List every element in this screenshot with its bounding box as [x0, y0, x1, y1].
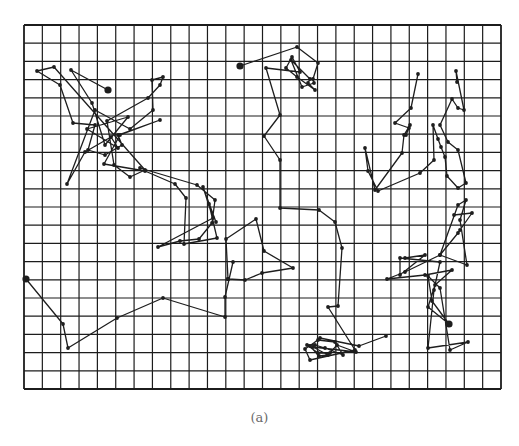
walk-vertex	[445, 174, 449, 178]
walk-vertex	[385, 277, 389, 281]
walk-vertex	[456, 231, 460, 235]
walk-vertex	[326, 353, 330, 357]
walk-vertex	[195, 183, 199, 187]
walk-vertex	[158, 118, 162, 122]
walk-vertex	[262, 249, 266, 253]
walk-vertex	[224, 237, 228, 241]
walk-vertex	[128, 127, 132, 131]
walk-vertex	[326, 305, 330, 309]
walk-vertex	[182, 242, 186, 246]
walk-vertex	[446, 140, 450, 144]
walk-vertex	[426, 274, 430, 278]
walk-vertex	[308, 344, 312, 348]
walk-vertex	[366, 169, 370, 173]
walk-vertex	[300, 85, 304, 89]
walk-vertex	[150, 78, 154, 82]
walk-vertex	[384, 334, 388, 338]
walk-vertex	[409, 106, 413, 110]
walk-vertex	[465, 263, 469, 267]
walk-vertex	[85, 127, 89, 131]
walk-vertex	[161, 296, 165, 300]
walk-vertex	[118, 133, 122, 137]
walk-vertex	[336, 304, 340, 308]
walk-vertex	[393, 121, 397, 125]
walk-vertex	[291, 266, 295, 270]
walk-vertex	[312, 81, 316, 85]
walk-vertex	[254, 217, 258, 221]
walk-vertex	[102, 162, 106, 166]
walk-vertex	[295, 45, 299, 49]
walk-path	[365, 71, 466, 191]
walk-vertex	[151, 108, 155, 112]
walk-vertex	[456, 106, 460, 110]
walk-vertex	[313, 88, 317, 92]
walk-vertex	[398, 273, 402, 277]
walk-vertex	[450, 97, 454, 101]
walk-vertex	[290, 55, 294, 59]
walk-vertex	[71, 121, 75, 125]
walk-vertex	[66, 346, 70, 350]
walk-vertex	[462, 108, 466, 112]
walk-path	[37, 67, 217, 247]
walk-vertex	[398, 256, 402, 260]
walk-vertex	[116, 146, 120, 150]
walk-vertex	[52, 65, 56, 69]
walk-path	[226, 219, 293, 280]
walk-vertex	[318, 336, 322, 340]
walk-vertex	[432, 158, 436, 162]
walk-vertex	[308, 358, 312, 362]
walk-vertex	[317, 208, 321, 212]
walk-vertex	[430, 299, 434, 303]
walk-vertex	[109, 135, 113, 139]
walk-vertex	[295, 75, 299, 79]
walk-vertex	[103, 153, 107, 157]
walk-vertex	[278, 158, 282, 162]
walk-vertex	[143, 169, 147, 173]
walk-vertex	[316, 61, 320, 65]
walk-start-dot	[104, 86, 111, 93]
walk-vertex	[456, 148, 460, 152]
walk-vertex	[426, 305, 430, 309]
walk-vertex	[335, 343, 339, 347]
walk-vertex	[357, 344, 361, 348]
walk-top-left	[35, 65, 219, 249]
walk-vertex	[178, 239, 182, 243]
walk-vertex	[439, 145, 443, 149]
walk-vertex	[438, 123, 442, 127]
walk-vertex	[58, 83, 62, 87]
walk-vertex	[433, 283, 437, 287]
walk-vertex	[93, 108, 97, 112]
walk-vertex	[223, 315, 227, 319]
walk-vertex	[115, 316, 119, 320]
walk-vertex	[213, 198, 217, 202]
walk-vertex	[93, 123, 97, 127]
walk-vertex	[458, 218, 462, 222]
walk-vertex	[333, 220, 337, 224]
random-walk-paths	[22, 45, 474, 362]
walk-vertex	[65, 182, 69, 186]
walk-top-center	[236, 45, 388, 362]
walk-vertex	[223, 295, 227, 299]
walk-vertex	[231, 260, 235, 264]
walk-vertex	[197, 237, 201, 241]
walk-vertex	[456, 186, 460, 190]
walk-vertex	[211, 216, 215, 220]
walk-vertex	[214, 220, 218, 224]
walk-vertex	[317, 354, 321, 358]
walk-vertex	[128, 175, 132, 179]
walk-vertex	[376, 189, 380, 193]
walk-vertex	[158, 83, 162, 87]
walk-vertex	[278, 113, 282, 117]
walk-vertex	[61, 322, 65, 326]
walk-vertex	[112, 163, 116, 167]
walk-vertex	[303, 347, 307, 351]
walk-vertex	[120, 143, 124, 147]
walk-vertex	[308, 77, 312, 81]
walk-vertex	[363, 146, 367, 150]
walk-vertex	[278, 206, 282, 210]
walk-vertex	[455, 80, 459, 84]
walk-vertex	[90, 101, 94, 105]
walk-vertex	[403, 256, 407, 260]
walk-vertex	[470, 211, 474, 215]
walk-vertex	[408, 123, 412, 127]
